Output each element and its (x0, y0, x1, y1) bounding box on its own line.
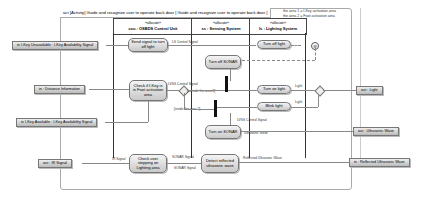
action-turn-on-sonar[interactable]: Turn on SONAR (205, 125, 241, 139)
flow-line (239, 162, 351, 163)
lane-divider (305, 33, 306, 158)
pin-in-distance[interactable]: in : Distance Information (34, 85, 85, 94)
pin-out-ir-signal[interactable]: out : IR Signal (38, 159, 72, 168)
action-send-signal[interactable]: Send signal to turn off light (128, 38, 168, 52)
action-blink-light[interactable]: Blink light (257, 102, 291, 111)
action-detect-wave[interactable]: Detect reflected ultrasonic wave (201, 154, 239, 173)
lane-sensing-system: «allocate» ss : Sensing System (191, 18, 251, 35)
flow-line (167, 163, 201, 164)
label-light: Light (295, 84, 302, 88)
lane-divider (249, 33, 250, 158)
flow-line (82, 163, 129, 164)
label-reflected-wave: Reflected Ultrasonic Wave (243, 156, 282, 160)
flow-line (106, 45, 128, 46)
label-lvss-control-2: LVSS Control Signal (237, 118, 267, 122)
pin-out-light[interactable]: out : Light (356, 86, 383, 95)
frame-title: act [Activity] Guide and recognize user … (60, 8, 271, 18)
action-turn-on-light[interactable]: Turn on light (257, 85, 291, 94)
label-sonar-signal: SONAR Signal (172, 155, 194, 159)
pin-out-ultrasonic[interactable]: out : Ultrasonic Wave (353, 127, 399, 136)
pin-in-reflected[interactable]: in : Reflected Ultrasonic Wave (349, 158, 410, 167)
flow-line (167, 90, 180, 91)
label-sonar-signal: SONAR Signal (174, 166, 196, 170)
flow-line (187, 90, 225, 91)
flow-line (230, 69, 231, 81)
flow-line (291, 107, 318, 108)
lane-control-unit: «allocate» ccu : OSBDS Control Unit (113, 18, 193, 35)
area-comment: the area 1 = I-Key activation area the a… (283, 9, 348, 18)
flow-line (148, 101, 149, 122)
action-turn-off-sonar[interactable]: Turn off SONAR (205, 55, 241, 69)
lane-lighting-system: «allocate» ls : Lighting System (249, 18, 307, 35)
pin-in-ikey-available[interactable]: in I-Key Available : I-Key Availability … (16, 118, 97, 127)
action-check-ikey[interactable]: Check if I-Key is in Foot activation are… (129, 80, 167, 101)
label-light: Light (295, 100, 302, 104)
flow-line (241, 131, 353, 132)
dashed-flow (242, 60, 315, 61)
lane-divider (113, 33, 114, 158)
label-ir-signal: IR Signal (112, 157, 125, 161)
flow-line (228, 90, 257, 91)
fork-bar (214, 100, 217, 117)
flow-line (184, 93, 185, 110)
dashed-flow (315, 48, 316, 60)
label-ls-control: LS Control Signal (172, 40, 198, 44)
lane-divider (191, 33, 192, 158)
flow-line (217, 107, 257, 108)
action-turn-off-light[interactable]: Turn off light (257, 40, 291, 49)
action-check-user[interactable]: Check user stepping on Lighting area (129, 154, 167, 173)
flow-line (168, 45, 256, 46)
flow-line (184, 109, 214, 110)
flow-line (323, 90, 356, 91)
dashed-flow (291, 45, 301, 46)
pin-in-ikey-unavailable[interactable]: in I-Key Unavailable : I-Key Availabilit… (12, 41, 98, 50)
flow-line (105, 122, 148, 123)
flow-line (89, 89, 129, 90)
